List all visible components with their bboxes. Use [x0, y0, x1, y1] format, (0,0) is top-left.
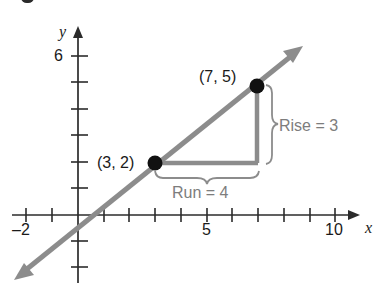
y-tick-label-6: 6: [54, 48, 63, 64]
point-label-3-2: (3, 2): [97, 155, 134, 171]
x-axis: [12, 208, 360, 222]
figure-canvas: y x 6 –2 5 10 (3, 2) (7, 5) Rise = 3 Run…: [0, 0, 383, 285]
y-axis-ticks: [71, 56, 88, 267]
graph-svg: [0, 0, 383, 285]
x-tick-label-minus-2: –2: [12, 222, 30, 238]
y-axis: [71, 26, 88, 283]
rise-annotation-label: Rise = 3: [279, 118, 338, 134]
rise-brace: [266, 85, 278, 164]
x-axis-label: x: [365, 220, 372, 236]
data-point-7-5: [250, 79, 265, 94]
point-label-7-5: (7, 5): [199, 69, 236, 85]
x-tick-label-5: 5: [202, 222, 211, 238]
run-annotation-label: Run = 4: [172, 185, 228, 201]
data-point-3-2: [148, 156, 163, 171]
y-axis-label: y: [59, 24, 66, 40]
run-brace: [155, 171, 259, 184]
x-tick-label-10: 10: [325, 222, 343, 238]
